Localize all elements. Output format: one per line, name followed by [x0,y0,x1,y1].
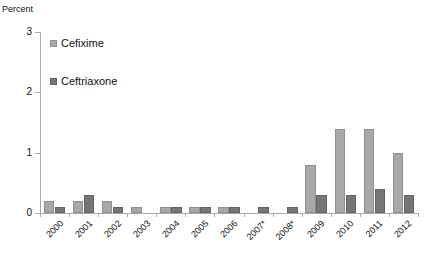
bar-ceftriaxone-2006 [229,207,240,213]
bar-ceftriaxone-2000 [55,207,66,213]
legend-item-ceftriaxone: Ceftriaxone [50,76,117,87]
x-tick-mark [273,213,274,217]
y-tick-label: 0 [6,208,32,218]
bar-ceftriaxone-2001 [84,195,95,213]
bar-ceftriaxone-2012 [404,195,415,213]
bar-cefixime-2009 [305,165,316,213]
bar-ceftriaxone-2008 [287,207,298,213]
x-tick-label-text: 2007* [245,219,268,242]
bar-ceftriaxone-2004 [171,207,182,213]
x-tick-mark [302,213,303,217]
bar-cefixime-2006 [218,207,229,213]
bar-ceftriaxone-2011 [375,189,386,213]
y-tick-label: 3 [6,27,32,37]
x-tick-mark [127,213,128,217]
bar-ceftriaxone-2007 [258,207,269,213]
legend-item-cefixime: Cefixime [50,38,104,49]
chart-container: Percent 0123 200020012002200320042005200… [0,0,425,256]
x-tick-mark [214,213,215,217]
bar-cefixime-2012 [393,153,404,213]
x-tick-label-text: 2009 [306,219,327,240]
bar-ceftriaxone-2009 [316,195,327,213]
x-tick-mark [40,213,41,217]
x-tick-label-text: 2012 [393,219,414,240]
bar-cefixime-2004 [160,207,171,213]
x-tick-label-text: 2000 [44,219,65,240]
x-tick-label-text: 2008* [275,219,298,242]
y-tick-label: 1 [6,148,32,158]
bar-cefixime-2003 [131,207,142,213]
x-tick-mark [389,213,390,217]
x-tick-mark [69,213,70,217]
bar-cefixime-2000 [44,201,55,213]
legend-label-ceftriaxone: Ceftriaxone [61,76,117,87]
bar-ceftriaxone-2010 [346,195,357,213]
bar-cefixime-2002 [102,201,113,213]
x-tick-mark [185,213,186,217]
y-tick-label: 2 [6,87,32,97]
legend-swatch-icon-ceftriaxone [50,78,57,85]
bar-ceftriaxone-2005 [200,207,211,213]
y-axis-title: Percent [2,4,33,15]
bar-cefixime-2005 [189,207,200,213]
x-tick-label-text: 2010 [335,219,356,240]
bars-layer [40,32,418,213]
x-tick-mark [98,213,99,217]
x-tick-mark [418,213,419,217]
x-tick-mark [331,213,332,217]
x-tick-label-text: 2011 [365,219,385,239]
x-tick-label-text: 2006 [219,219,240,240]
x-tick-mark [156,213,157,217]
x-tick-mark [244,213,245,217]
legend-label-cefixime: Cefixime [61,38,104,49]
x-tick-label-text: 2002 [103,219,124,240]
bar-cefixime-2010 [335,129,346,213]
bar-ceftriaxone-2002 [113,207,124,213]
x-tick-mark [360,213,361,217]
x-tick-label-text: 2001 [73,219,94,240]
x-tick-label-text: 2005 [190,219,211,240]
x-tick-label-text: 2004 [161,219,182,240]
x-tick-label-text: 2003 [132,219,153,240]
legend-swatch-icon-cefixime [50,40,57,47]
bar-cefixime-2001 [73,201,84,213]
bar-cefixime-2011 [364,129,375,213]
